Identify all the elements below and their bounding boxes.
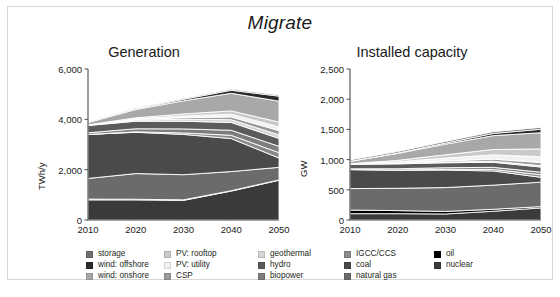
- legend-label: hydro: [270, 260, 290, 270]
- figure-caption-strip: [6, 286, 554, 297]
- chart-title-installed-capacity: Installed capacity: [312, 44, 512, 60]
- legend-item-pv-rooftop[interactable]: PV: rooftop: [164, 249, 217, 260]
- legend-label: wind: offshore: [98, 260, 149, 270]
- legend-item-natural-gas[interactable]: natural gas: [344, 271, 397, 282]
- legend-item-hydro[interactable]: hydro: [258, 260, 311, 271]
- legend-item-storage[interactable]: storage: [86, 249, 149, 260]
- legend-column-3: geothermalhydrobiopower: [258, 249, 311, 282]
- legend-swatch-icon: [258, 262, 265, 269]
- legend-item-csp[interactable]: CSP: [164, 271, 217, 282]
- legend-swatch-icon: [258, 251, 265, 258]
- figure-root: Migrate Generation TWh/y 02,0004,0006,00…: [0, 0, 560, 297]
- figure-title: Migrate: [0, 12, 560, 34]
- legend-swatch-icon: [344, 251, 351, 258]
- legend-swatch-icon: [164, 251, 171, 258]
- legend-swatch-icon: [86, 262, 93, 269]
- area-chart-installed-capacity: [292, 65, 547, 240]
- legend-swatch-icon: [86, 251, 93, 258]
- legend-label: IGCC/CCS: [356, 249, 396, 259]
- legend-item-wind-onshore[interactable]: wind: onshore: [86, 271, 149, 282]
- legend-column-4: IGCC/CCScoalnatural gas: [344, 249, 397, 282]
- legend-item-biopower[interactable]: biopower: [258, 271, 311, 282]
- legend-item-pv-utility[interactable]: PV: utility: [164, 260, 217, 271]
- legend-swatch-icon: [344, 262, 351, 269]
- legend-label: CSP: [176, 271, 193, 281]
- legend-item-oil[interactable]: oil: [434, 249, 473, 260]
- legend-label: wind: onshore: [98, 271, 149, 281]
- legend-item-geothermal[interactable]: geothermal: [258, 249, 311, 260]
- legend-item-wind-offshore[interactable]: wind: offshore: [86, 260, 149, 271]
- area-chart-generation: [30, 65, 285, 240]
- legend-swatch-icon: [434, 251, 441, 258]
- legend-label: biopower: [270, 271, 303, 281]
- legend-label: coal: [356, 260, 371, 270]
- legend-swatch-icon: [344, 273, 351, 280]
- legend-label: natural gas: [356, 271, 397, 281]
- legend-item-igcc-ccs[interactable]: IGCC/CCS: [344, 249, 397, 260]
- legend-swatch-icon: [258, 273, 265, 280]
- legend-label: PV: rooftop: [176, 249, 217, 259]
- chart-legend: storagewind: offshorewind: onshorePV: ro…: [86, 249, 506, 281]
- legend-swatch-icon: [164, 273, 171, 280]
- legend-column-5: oilnuclear: [434, 249, 473, 271]
- legend-label: storage: [98, 249, 125, 259]
- legend-item-nuclear[interactable]: nuclear: [434, 260, 473, 271]
- legend-swatch-icon: [164, 262, 171, 269]
- plot-area-installed-capacity: GW 05001,0001,5002,0002,500 201020202030…: [292, 65, 547, 240]
- legend-label: geothermal: [270, 249, 311, 259]
- legend-label: nuclear: [446, 260, 473, 270]
- chart-title-generation: Generation: [44, 44, 244, 60]
- legend-swatch-icon: [434, 262, 441, 269]
- legend-item-coal[interactable]: coal: [344, 260, 397, 271]
- legend-swatch-icon: [86, 273, 93, 280]
- plot-area-generation: TWh/y 02,0004,0006,000 20102020203020402…: [30, 65, 285, 240]
- legend-column-1: storagewind: offshorewind: onshore: [86, 249, 149, 282]
- legend-column-2: PV: rooftopPV: utilityCSP: [164, 249, 217, 282]
- legend-label: oil: [446, 249, 454, 259]
- legend-label: PV: utility: [176, 260, 210, 270]
